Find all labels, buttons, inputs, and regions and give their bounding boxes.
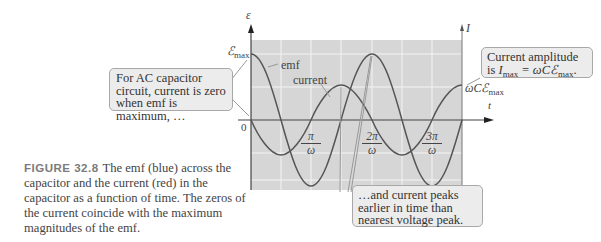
time-axis-label: t <box>488 99 491 111</box>
emf-axis-label: ε <box>246 8 251 23</box>
callout-right: Current amplitude is Imax = ωCℰmax. <box>481 47 593 78</box>
callout-left: For AC capacitor circuit, current is zer… <box>109 68 233 111</box>
emf-max-symbol: ℰ <box>227 44 234 58</box>
right-axis-arrow-icon <box>460 24 464 31</box>
current-axis-label: I <box>466 21 470 36</box>
callout-bottom: …and current peaks earlier in time than … <box>352 185 483 227</box>
emf-max-subscript: max <box>234 50 250 60</box>
current-max-label: ωCℰmax <box>465 81 504 97</box>
emf-max-label: ℰmax <box>227 44 250 60</box>
tick-3pi-over-omega: 3πω <box>422 131 442 156</box>
origin-label: 0 <box>241 121 247 133</box>
current-curve-label: current <box>293 73 327 88</box>
current-max-symbol: ωCℰ <box>465 81 488 95</box>
figure-number: FIGURE 32.8 <box>24 162 99 174</box>
current-max-subscript: max <box>488 87 504 97</box>
tick-2pi-over-omega: 2πω <box>362 131 382 156</box>
left-axis-arrow-icon <box>248 24 254 33</box>
figure-caption: FIGURE 32.8The emf (blue) across the cap… <box>24 161 246 236</box>
time-axis-arrow-icon <box>484 117 494 123</box>
emf-curve-label: emf <box>281 58 300 73</box>
tick-pi-over-omega: πω <box>301 131 321 156</box>
